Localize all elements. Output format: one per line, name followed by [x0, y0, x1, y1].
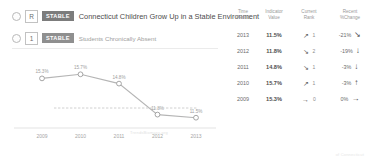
- cell-indicator-value: 11.5%: [258, 27, 290, 43]
- change-trend-arrow-icon: ↓: [354, 63, 358, 71]
- data-point-labels: 15.3%15.7%14.8%11.8%11.5%: [35, 65, 202, 113]
- rank-trend-arrow-icon: ↗: [303, 32, 309, 39]
- rank-number: 1: [313, 32, 316, 38]
- header-line-1: Indicator: [265, 9, 283, 14]
- header-line-2: Value: [258, 15, 290, 21]
- header-line-1: Time: [238, 9, 248, 14]
- table-row[interactable]: 200915.3%→00%→: [228, 91, 372, 107]
- cell-indicator-value: 15.7%: [258, 75, 290, 91]
- change-percent: -19%: [340, 48, 353, 54]
- header-line-2: Rank: [290, 15, 328, 21]
- indicator-value: 11.8%: [266, 48, 282, 54]
- cell-time-period: 2010: [228, 75, 258, 91]
- rank-trend-arrow-icon: ↘: [303, 48, 309, 55]
- cell-current-rank: ↘1: [290, 59, 328, 75]
- header-divider: [12, 48, 218, 49]
- rank-number: 1: [313, 80, 316, 86]
- change-percent: 0%: [341, 96, 349, 102]
- cell-recent-change: -3%↑: [328, 75, 372, 91]
- cell-recent-change: -21%↘: [328, 27, 372, 43]
- chart-watermark: TrendsBiomass.org: [130, 130, 168, 135]
- change-trend-arrow-icon: ↑: [354, 79, 358, 87]
- data-point-marker[interactable]: [155, 112, 160, 117]
- rank-trend-arrow-icon: ↗: [303, 80, 309, 87]
- cell-current-rank: ↘2: [290, 43, 328, 59]
- header-line-2: %Change: [328, 15, 372, 21]
- indicator-subtitle: Students Chronically Absent: [79, 35, 156, 42]
- table-header-row: Time Period Indicator Value Current Rank…: [228, 9, 372, 27]
- cell-indicator-value: 11.8%: [258, 43, 290, 59]
- key-letter-box: R: [25, 10, 38, 23]
- column-header-time-period: Time Period: [228, 9, 258, 27]
- change-percent: -21%: [339, 32, 352, 38]
- chart-svg: 15.3%15.7%14.8%11.8%11.5% 20092010201120…: [12, 52, 218, 148]
- left-panel: R STABLE Connecticut Children Grow Up in…: [0, 0, 226, 165]
- data-table-panel: Time Period Indicator Value Current Rank…: [228, 0, 372, 165]
- data-point-marker[interactable]: [78, 72, 83, 77]
- data-point-label: 14.8%: [112, 75, 125, 80]
- change-trend-arrow-icon: ↘: [354, 31, 361, 39]
- data-table: Time Period Indicator Value Current Rank…: [228, 9, 372, 107]
- column-header-indicator-value: Indicator Value: [258, 9, 290, 27]
- rank-trend-arrow-icon: ↘: [303, 64, 309, 71]
- table-row[interactable]: 201311.5%↗1-21%↘: [228, 27, 372, 43]
- cell-recent-change: -19%↓: [328, 43, 372, 59]
- cell-time-period: 2013: [228, 27, 258, 43]
- x-axis-tick-label: 2010: [75, 133, 86, 139]
- data-point-marker[interactable]: [194, 115, 199, 120]
- indicator-header-primary[interactable]: R STABLE Connecticut Children Grow Up in…: [12, 10, 259, 22]
- indicator-value: 11.5%: [266, 32, 282, 38]
- cell-time-period: 2012: [228, 43, 258, 59]
- data-point-label: 11.8%: [151, 106, 164, 111]
- key-number-box: 1: [25, 32, 38, 45]
- cell-time-period: 2011: [228, 59, 258, 75]
- header-line-1: Current: [301, 9, 316, 14]
- chart-card: R STABLE Connecticut Children Grow Up in…: [0, 0, 372, 165]
- rank-number: 0: [313, 96, 316, 102]
- cell-time-period: 2009: [228, 91, 258, 107]
- status-badge: STABLE: [42, 33, 74, 43]
- cell-indicator-value: 15.3%: [258, 91, 290, 107]
- data-point-label: 15.7%: [74, 65, 87, 70]
- table-row[interactable]: 201015.7%↗1-3%↑: [228, 75, 372, 91]
- table-body: 201311.5%↗1-21%↘201211.8%↘2-19%↓201114.8…: [228, 27, 372, 107]
- x-axis-tick-label: 2011: [114, 133, 125, 139]
- data-point-label: 15.3%: [35, 69, 48, 74]
- cell-current-rank: ↗1: [290, 75, 328, 91]
- footer-note: of Connecticut: [336, 152, 364, 157]
- header-line-2: Period: [228, 15, 258, 21]
- rank-number: 1: [313, 64, 316, 70]
- radio-bullet-icon[interactable]: [12, 34, 21, 43]
- data-point-marker[interactable]: [40, 76, 45, 81]
- cell-current-rank: ↗1: [290, 27, 328, 43]
- x-axis-tick-label: 2009: [36, 133, 47, 139]
- status-badge: STABLE: [42, 11, 74, 21]
- rank-number: 2: [313, 48, 316, 54]
- indicator-value: 15.3%: [266, 96, 282, 102]
- indicator-value: 14.8%: [266, 64, 282, 70]
- cell-indicator-value: 14.8%: [258, 59, 290, 75]
- column-header-current-rank: Current Rank: [290, 9, 328, 27]
- cell-recent-change: -3%↓: [328, 59, 372, 75]
- data-point-label: 11.5%: [190, 109, 203, 114]
- cell-current-rank: →0: [290, 91, 328, 107]
- table-row[interactable]: 201211.8%↘2-19%↓: [228, 43, 372, 59]
- change-percent: -3%: [342, 80, 352, 86]
- change-percent: -3%: [342, 64, 352, 70]
- x-axis-tick-labels: 20092010201120122013: [36, 133, 201, 139]
- column-header-recent-change: Recent %Change: [328, 9, 372, 27]
- change-trend-arrow-icon: ↓: [356, 47, 360, 55]
- header-line-1: Recent: [343, 9, 358, 14]
- cell-recent-change: 0%→: [328, 91, 372, 107]
- data-point-marker[interactable]: [117, 81, 122, 86]
- x-axis-tick-label: 2013: [190, 133, 201, 139]
- table-row[interactable]: 201114.8%↘1-3%↓: [228, 59, 372, 75]
- rank-trend-arrow-icon: →: [302, 96, 309, 103]
- change-trend-arrow-icon: →: [351, 95, 359, 103]
- indicator-value: 15.7%: [266, 80, 282, 86]
- radio-bullet-icon[interactable]: [12, 12, 21, 21]
- indicator-header-secondary[interactable]: 1 STABLE Students Chronically Absent: [12, 32, 156, 44]
- line-chart: 15.3%15.7%14.8%11.8%11.5% 20092010201120…: [12, 52, 218, 148]
